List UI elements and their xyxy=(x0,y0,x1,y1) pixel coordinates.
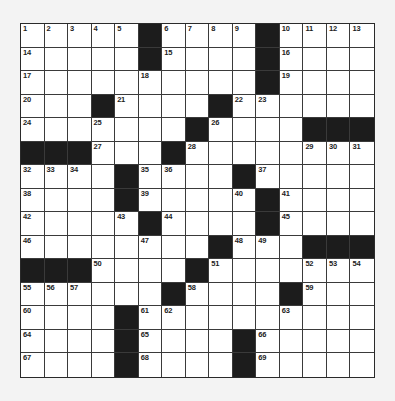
crossword-cell[interactable]: 44 xyxy=(162,212,186,236)
crossword-cell[interactable]: 57 xyxy=(68,283,92,307)
crossword-cell[interactable] xyxy=(115,283,139,307)
crossword-cell[interactable] xyxy=(350,165,374,189)
crossword-cell[interactable] xyxy=(233,306,257,330)
crossword-cell[interactable] xyxy=(162,95,186,119)
crossword-cell[interactable] xyxy=(280,95,304,119)
crossword-cell[interactable] xyxy=(280,118,304,142)
crossword-cell[interactable] xyxy=(92,353,116,377)
crossword-cell[interactable] xyxy=(139,118,163,142)
crossword-cell[interactable]: 12 xyxy=(327,24,351,48)
crossword-cell[interactable] xyxy=(68,236,92,260)
crossword-cell[interactable] xyxy=(256,118,280,142)
crossword-cell[interactable]: 66 xyxy=(256,330,280,354)
crossword-cell[interactable]: 50 xyxy=(92,259,116,283)
crossword-cell[interactable] xyxy=(327,353,351,377)
crossword-cell[interactable] xyxy=(327,283,351,307)
crossword-cell[interactable]: 8 xyxy=(209,24,233,48)
crossword-cell[interactable] xyxy=(139,283,163,307)
crossword-cell[interactable]: 40 xyxy=(233,189,257,213)
crossword-cell[interactable] xyxy=(209,283,233,307)
crossword-cell[interactable] xyxy=(115,48,139,72)
crossword-cell[interactable] xyxy=(139,142,163,166)
crossword-cell[interactable]: 4 xyxy=(92,24,116,48)
crossword-cell[interactable] xyxy=(186,189,210,213)
crossword-cell[interactable] xyxy=(303,353,327,377)
crossword-cell[interactable] xyxy=(45,95,69,119)
crossword-cell[interactable] xyxy=(45,212,69,236)
crossword-cell[interactable] xyxy=(139,95,163,119)
crossword-cell[interactable] xyxy=(68,212,92,236)
crossword-cell[interactable] xyxy=(327,212,351,236)
crossword-cell[interactable]: 58 xyxy=(186,283,210,307)
crossword-cell[interactable] xyxy=(162,259,186,283)
crossword-cell[interactable] xyxy=(45,48,69,72)
crossword-cell[interactable]: 60 xyxy=(21,306,45,330)
crossword-cell[interactable] xyxy=(209,165,233,189)
crossword-cell[interactable] xyxy=(327,95,351,119)
crossword-cell[interactable] xyxy=(92,212,116,236)
crossword-cell[interactable] xyxy=(186,95,210,119)
crossword-cell[interactable] xyxy=(186,212,210,236)
crossword-cell[interactable] xyxy=(350,353,374,377)
crossword-cell[interactable] xyxy=(186,165,210,189)
crossword-cell[interactable] xyxy=(303,330,327,354)
crossword-cell[interactable] xyxy=(233,71,257,95)
crossword-cell[interactable] xyxy=(115,71,139,95)
crossword-cell[interactable]: 61 xyxy=(139,306,163,330)
crossword-cell[interactable] xyxy=(186,306,210,330)
crossword-cell[interactable] xyxy=(303,189,327,213)
crossword-cell[interactable] xyxy=(233,212,257,236)
crossword-cell[interactable]: 69 xyxy=(256,353,280,377)
crossword-cell[interactable] xyxy=(280,236,304,260)
crossword-cell[interactable]: 31 xyxy=(350,142,374,166)
crossword-cell[interactable]: 55 xyxy=(21,283,45,307)
crossword-cell[interactable] xyxy=(303,71,327,95)
crossword-cell[interactable]: 5 xyxy=(115,24,139,48)
crossword-cell[interactable]: 13 xyxy=(350,24,374,48)
crossword-cell[interactable] xyxy=(68,95,92,119)
crossword-cell[interactable]: 47 xyxy=(139,236,163,260)
crossword-cell[interactable] xyxy=(256,142,280,166)
crossword-cell[interactable] xyxy=(45,330,69,354)
crossword-cell[interactable]: 23 xyxy=(256,95,280,119)
crossword-cell[interactable] xyxy=(303,212,327,236)
crossword-cell[interactable] xyxy=(115,236,139,260)
crossword-cell[interactable] xyxy=(327,71,351,95)
crossword-cell[interactable] xyxy=(115,118,139,142)
crossword-cell[interactable]: 65 xyxy=(139,330,163,354)
crossword-cell[interactable] xyxy=(68,48,92,72)
crossword-cell[interactable] xyxy=(350,48,374,72)
crossword-cell[interactable] xyxy=(68,118,92,142)
crossword-cell[interactable] xyxy=(303,48,327,72)
crossword-cell[interactable]: 6 xyxy=(162,24,186,48)
crossword-cell[interactable]: 20 xyxy=(21,95,45,119)
crossword-cell[interactable] xyxy=(350,330,374,354)
crossword-cell[interactable]: 25 xyxy=(92,118,116,142)
crossword-cell[interactable] xyxy=(92,189,116,213)
crossword-cell[interactable] xyxy=(327,306,351,330)
crossword-cell[interactable]: 53 xyxy=(327,259,351,283)
crossword-cell[interactable]: 1 xyxy=(21,24,45,48)
crossword-cell[interactable] xyxy=(280,165,304,189)
crossword-cell[interactable] xyxy=(115,259,139,283)
crossword-cell[interactable] xyxy=(209,212,233,236)
crossword-cell[interactable] xyxy=(280,259,304,283)
crossword-cell[interactable]: 46 xyxy=(21,236,45,260)
crossword-cell[interactable]: 30 xyxy=(327,142,351,166)
crossword-cell[interactable] xyxy=(68,353,92,377)
crossword-cell[interactable] xyxy=(92,48,116,72)
crossword-cell[interactable] xyxy=(68,330,92,354)
crossword-cell[interactable] xyxy=(280,142,304,166)
crossword-cell[interactable] xyxy=(45,353,69,377)
crossword-cell[interactable] xyxy=(209,189,233,213)
crossword-cell[interactable] xyxy=(162,118,186,142)
crossword-cell[interactable] xyxy=(280,353,304,377)
crossword-cell[interactable]: 48 xyxy=(233,236,257,260)
crossword-cell[interactable] xyxy=(233,259,257,283)
crossword-cell[interactable]: 11 xyxy=(303,24,327,48)
crossword-cell[interactable] xyxy=(162,353,186,377)
crossword-cell[interactable]: 32 xyxy=(21,165,45,189)
crossword-cell[interactable] xyxy=(327,48,351,72)
crossword-cell[interactable] xyxy=(186,71,210,95)
crossword-cell[interactable] xyxy=(350,212,374,236)
